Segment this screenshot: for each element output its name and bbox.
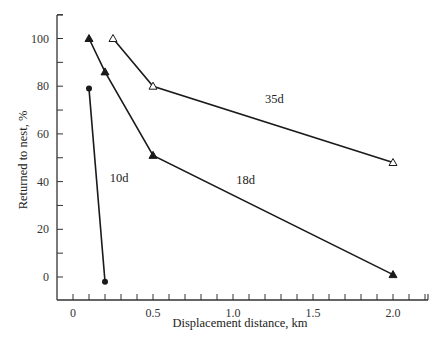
circle-marker [86,86,92,92]
x-axis-title: Displacement distance, km [172,316,307,330]
series-10d: 10d [86,86,129,285]
y-axis-title: Returned to nest, % [16,111,30,210]
axes: 02040608010000.51.01.52.0 [31,15,428,320]
series-line-35d [113,39,393,163]
y-tick-label: 100 [31,32,49,46]
filled-triangle-marker [149,151,157,158]
series-label-10d: 10d [110,171,130,185]
open-triangle-marker [109,35,117,42]
filled-triangle-marker [85,35,93,42]
y-tick-label: 60 [37,127,49,141]
circle-marker [102,279,108,285]
x-tick-label: 2.0 [386,306,401,320]
y-tick-label: 0 [43,270,49,284]
filled-triangle-marker [101,68,109,75]
series-line-18d [89,39,393,275]
x-tick-label: 0.5 [146,306,161,320]
y-tick-label: 40 [37,175,49,189]
series-line-10d [89,89,105,282]
y-tick-label: 80 [37,79,49,93]
x-tick-label: 0 [70,306,76,320]
line-chart: 02040608010000.51.01.52.0 10d18d35d Retu… [0,0,442,345]
series-group: 10d18d35d [85,35,397,285]
series-label-18d: 18d [236,173,256,187]
series-label-35d: 35d [265,92,285,106]
x-tick-label: 1.5 [306,306,321,320]
y-tick-label: 20 [37,222,49,236]
series-35d: 35d [109,35,397,166]
series-18d: 18d [85,35,397,278]
